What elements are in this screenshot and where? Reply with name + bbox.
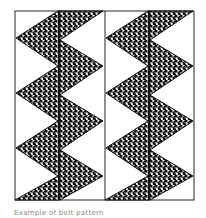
- figure-caption: Example of bolt pattern: [14, 209, 104, 217]
- zigzag-pattern-figure: [0, 0, 206, 218]
